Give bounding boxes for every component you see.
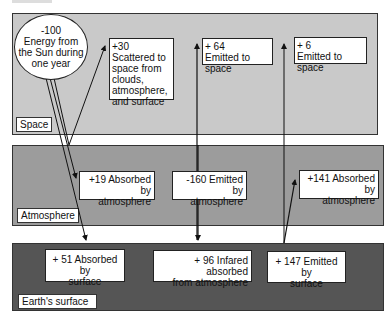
infrared-96-text-1: + 96 Infared absorbed [157, 255, 248, 277]
emitted-6-value: + 6 [297, 40, 364, 51]
scattered-text-4: atmosphere, [112, 85, 171, 96]
emitted-160-text-1: -160 Emitted by [176, 174, 243, 196]
scattered-text-1: Scattered to [112, 52, 171, 63]
emitted-160-text-2: atmosphere [176, 196, 243, 207]
emitted-147-text-2: surface [271, 278, 342, 289]
absorbed-141-text-1: +141 Absorbed by [303, 173, 375, 195]
emitted-64-box: + 64 Emitted to space [202, 38, 273, 65]
sun-value: -100 [15, 25, 87, 36]
absorbed-51-text-1: + 51 Absorbed by [49, 254, 121, 276]
emitted-6-text: Emitted to space [297, 51, 364, 73]
absorbed-51-box: + 51 Absorbed by surface [45, 249, 125, 282]
emitted-147-box: + 147 Emitted by surface [267, 251, 346, 283]
infrared-96-text-2: from atmosphere [157, 277, 248, 288]
absorbed-141-text-2: atmosphere [303, 195, 375, 206]
emitted-160-box: -160 Emitted by atmosphere [172, 171, 247, 200]
emitted-6-box: + 6 Emitted to space [294, 37, 367, 64]
infrared-96-box: + 96 Infared absorbed from atmosphere [153, 250, 252, 282]
absorbed-141-box: +141 Absorbed by atmosphere [299, 170, 379, 199]
scattered-value: +30 [112, 41, 171, 52]
sun-text-2: the Sun during [15, 47, 87, 58]
absorbed-51-text-2: surface [49, 276, 121, 287]
sun-text-1: Energy from [15, 36, 87, 47]
scattered-text-3: clouds, [112, 74, 171, 85]
absorbed-19-text-1: +19 Absorbed by [83, 174, 151, 196]
scattered-text-5: and surface [112, 96, 171, 107]
sun-energy-circle: -100 Energy from the Sun during one year [14, 14, 88, 80]
sun-text-3: one year [15, 58, 87, 69]
emitted-64-value: + 64 [205, 41, 270, 52]
absorbed-19-box: +19 Absorbed by atmosphere [79, 171, 155, 200]
emitted-64-text: Emitted to space [205, 52, 270, 74]
emitted-147-text-1: + 147 Emitted by [271, 256, 342, 278]
scattered-box: +30 Scattered to space from clouds, atmo… [109, 38, 174, 100]
scattered-text-2: space from [112, 63, 171, 74]
absorbed-19-text-2: atmosphere [83, 196, 151, 207]
